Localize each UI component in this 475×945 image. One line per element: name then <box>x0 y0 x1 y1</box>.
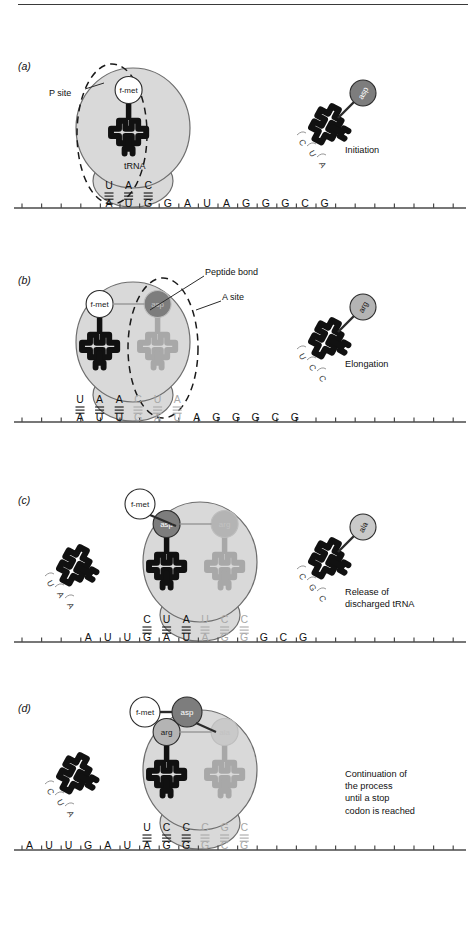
codon-base: G <box>201 839 209 851</box>
codon-base: G <box>240 839 248 851</box>
codon-base: C <box>221 839 229 851</box>
mrna-base: G <box>260 631 268 643</box>
anticodon-leader <box>65 595 74 598</box>
codon-base: G <box>221 631 229 643</box>
anticodon-leader <box>307 357 316 360</box>
anticodon-base: A <box>96 393 103 405</box>
free-trna-anticodon-base: U <box>45 579 57 589</box>
codon-base: G <box>134 411 142 423</box>
mrna-base: G <box>299 631 307 643</box>
anticodon-base: U <box>76 393 84 405</box>
anticodon-leader <box>307 577 316 580</box>
free-trna-anticodon-base: C <box>297 138 309 148</box>
free-trna-anticodon-base: U <box>307 149 319 159</box>
amino-acid-label: arg <box>161 728 173 737</box>
codon-base: U <box>96 411 104 423</box>
anticodon-base: C <box>240 613 248 625</box>
anticodon-leader <box>317 368 326 371</box>
free-trna-anticodon-base: A <box>65 809 77 819</box>
mrna-base: A <box>26 839 33 851</box>
panel-b: (b)ElongationUAAUAUf-metCGUAAUaspAGGGCGU… <box>0 262 475 477</box>
codon-base: U <box>115 411 123 423</box>
anticodon-base: C <box>240 821 248 833</box>
p-site-label: P site <box>49 88 71 98</box>
free-trna-anticodon-base: A <box>65 601 77 611</box>
mrna-base: A <box>184 197 191 209</box>
anticodon-base: A <box>116 393 123 405</box>
panel-graphic: UAAUCGf-metGAUAGGGCGCUAasp <box>0 48 475 263</box>
codon-base: G <box>182 839 190 851</box>
anticodon-base: U <box>201 613 209 625</box>
mrna-base: C <box>280 631 288 643</box>
mrna-base: U <box>124 631 132 643</box>
mrna-base: G <box>84 839 92 851</box>
free-trna-anticodon-base: C <box>307 363 319 373</box>
amino-acid-label: ala <box>219 728 230 737</box>
amino-acid-label: f-met <box>136 708 155 717</box>
codon-base: A <box>76 411 83 423</box>
amino-acid-label: asp <box>181 708 194 717</box>
free-trna-anticodon-base: C <box>45 787 57 797</box>
free-trna-anticodon-base: U <box>297 352 309 362</box>
trna-body <box>55 751 103 800</box>
codon-base: G <box>240 631 248 643</box>
codon-base: A <box>201 631 208 643</box>
anticodon-base: U <box>143 821 151 833</box>
anticodon-leader <box>45 781 54 784</box>
codon-base: G <box>144 197 152 209</box>
free-trna-anticodon-base: U <box>55 798 67 808</box>
anticodon-leader <box>317 588 326 591</box>
panel-c: (c)Release of discharged tRNACGUAAUaspUA… <box>0 482 475 697</box>
mrna-base: G <box>164 197 172 209</box>
free-trna-anticodon-base: A <box>55 590 67 600</box>
mrna-base: U <box>124 839 132 851</box>
mrna-base: G <box>242 197 250 209</box>
mrna-base: G <box>291 411 299 423</box>
codon-base: G <box>163 839 171 851</box>
anticodon-base: C <box>144 179 152 191</box>
free-trna-anticodon-base: C <box>317 374 329 384</box>
panel-graphic: UACGCGargCGGCCGalaAUUGAUCUAf-metasp <box>0 690 475 905</box>
anticodon-base: A <box>174 393 181 405</box>
anticodon-base: A <box>125 179 132 191</box>
free-trna-anticodon-base: C <box>297 572 309 582</box>
anticodon-base: C <box>134 393 142 405</box>
codon-base: U <box>182 631 190 643</box>
a-site-label: A site <box>222 292 244 302</box>
free-trna-anticodon-base: A <box>317 160 329 170</box>
trna-label: tRNA <box>124 161 146 171</box>
translation-figure: (a)InitiationUAAUCGf-metGAUAGGGCGCUAaspP… <box>0 0 475 945</box>
anticodon-base: G <box>221 821 229 833</box>
anticodon-leader <box>297 132 306 135</box>
anticodon-leader <box>55 792 64 795</box>
panel-a: (a)InitiationUAAUCGf-metGAUAGGGCGCUAaspP… <box>0 48 475 263</box>
mrna-base: G <box>321 197 329 209</box>
panel-d: (d)Continuation of the process until a s… <box>0 690 475 905</box>
anticodon-base: U <box>163 613 171 625</box>
anticodon-base: C <box>182 821 190 833</box>
codon-base: A <box>154 411 161 423</box>
peptide-bond-label: Peptide bond <box>205 267 258 277</box>
codon-base: U <box>125 197 133 209</box>
codon-base: G <box>143 631 151 643</box>
mrna-base: C <box>301 197 309 209</box>
mrna-base: C <box>271 411 279 423</box>
anticodon-leader <box>55 584 64 587</box>
anticodon-leader <box>45 573 54 576</box>
anticodon-base: C <box>201 821 209 833</box>
amino-acid-label: arg <box>219 520 231 529</box>
free-trna-anticodon-base: G <box>307 582 319 593</box>
anticodon-base: A <box>183 613 190 625</box>
amino-acid-label: f-met <box>131 500 150 509</box>
panel-graphic: CGUAAUaspUACGCGargGCGAUUUAACGCalaf-met <box>0 482 475 697</box>
top-rule <box>18 4 468 5</box>
anticodon-base: U <box>154 393 162 405</box>
anticodon-leader <box>317 154 326 157</box>
anticodon-base: C <box>143 613 151 625</box>
codon-base: U <box>173 411 181 423</box>
free-trna-anticodon-base: C <box>317 594 329 604</box>
amino-acid-label: f-met <box>90 300 109 309</box>
codon-base: A <box>143 839 150 851</box>
a-site-leader <box>196 301 221 310</box>
mrna-base: A <box>223 197 230 209</box>
